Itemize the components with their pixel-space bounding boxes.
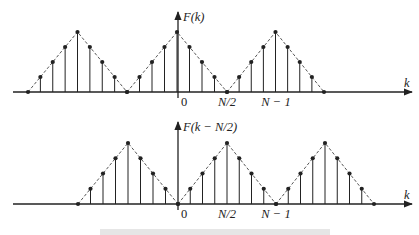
sample-point	[249, 60, 253, 64]
sample-point	[100, 60, 104, 64]
sample-point	[273, 30, 277, 34]
sample-point	[113, 156, 117, 160]
sample-point	[76, 202, 80, 206]
sample-point	[113, 75, 117, 79]
tick-label: N/2	[217, 207, 236, 221]
sample-point	[175, 30, 179, 34]
sample-point	[323, 141, 327, 145]
top-plot: F(k)k0N/2N − 1	[13, 10, 412, 109]
x-axis-label: k	[404, 76, 410, 90]
sample-point	[51, 60, 55, 64]
sample-point	[125, 90, 129, 94]
sample-point	[200, 171, 204, 175]
tick-label: N/2	[217, 95, 236, 109]
sample-point	[261, 45, 265, 49]
sample-point	[187, 45, 191, 49]
tick-label: N − 1	[260, 207, 290, 221]
tick-label: N − 1	[260, 95, 290, 109]
spectrum-shift-diagram: F(k)k0N/2N − 1 F(k − N/2)k0N/2N − 1	[0, 0, 419, 235]
bottom-plot: F(k − N/2)k0N/2N − 1	[13, 120, 412, 221]
sample-point	[249, 171, 253, 175]
sample-point	[26, 90, 30, 94]
x-axis-label: k	[404, 188, 410, 202]
sample-point	[360, 187, 364, 191]
sample-point	[310, 75, 314, 79]
sample-point	[213, 156, 217, 160]
sample-point	[237, 156, 241, 160]
tick-label: 0	[181, 207, 187, 221]
sample-point	[38, 75, 42, 79]
sample-point	[162, 45, 166, 49]
sample-point	[298, 171, 302, 175]
sample-point	[311, 156, 315, 160]
sample-point	[63, 45, 67, 49]
sample-point	[237, 75, 241, 79]
sample-point	[126, 141, 130, 145]
sample-point	[212, 75, 216, 79]
sample-point	[75, 30, 79, 34]
sample-point	[298, 60, 302, 64]
sample-point	[163, 187, 167, 191]
sample-point	[138, 156, 142, 160]
y-axis-label: F(k − N/2)	[182, 120, 237, 134]
sample-point	[322, 90, 326, 94]
sample-point	[88, 45, 92, 49]
y-axis-label: F(k)	[182, 10, 205, 24]
sample-point	[335, 156, 339, 160]
sample-point	[286, 187, 290, 191]
sample-point	[150, 60, 154, 64]
sample-point	[101, 171, 105, 175]
sample-point	[176, 202, 180, 206]
sample-point	[188, 187, 192, 191]
sample-point	[225, 90, 229, 94]
sample-point	[372, 202, 376, 206]
sample-point	[151, 171, 155, 175]
sample-point	[286, 45, 290, 49]
sample-point	[88, 187, 92, 191]
sample-point	[137, 75, 141, 79]
sample-point	[262, 187, 266, 191]
tick-label: 0	[181, 95, 187, 109]
sample-point	[347, 171, 351, 175]
figure-caption-clipped	[100, 229, 330, 235]
sample-point	[200, 60, 204, 64]
sample-point	[274, 202, 278, 206]
sample-point	[225, 141, 229, 145]
